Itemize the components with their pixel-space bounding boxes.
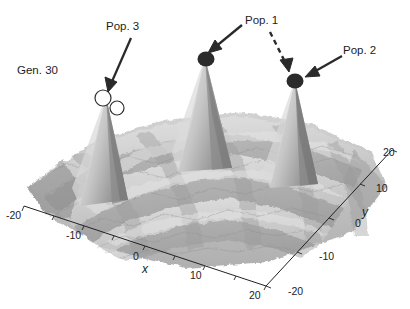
y-axis-title: y (362, 205, 368, 219)
marker-pop1 (198, 52, 215, 67)
arrow-migration-dashed (270, 32, 293, 72)
fitness-landscape-figure: Gen. 30 Pop. 3 Pop. 1 Pop. 2 -20 -10 0 1… (0, 0, 410, 309)
pop1-label: Pop. 1 (245, 14, 278, 26)
xtick-label-1: -10 (66, 229, 81, 241)
xtick-label-3: 10 (190, 269, 202, 281)
ytick-label-4: 20 (383, 146, 395, 158)
marker-pop2 (287, 74, 304, 89)
generation-label: Gen. 30 (17, 64, 58, 76)
xtick-label-4: 20 (249, 289, 261, 301)
arrow-pop2 (305, 56, 342, 77)
ytick-label-1: -10 (319, 250, 334, 262)
xtick-label-2: 0 (133, 250, 139, 262)
arrow-pop3 (105, 38, 131, 92)
ytick-label-2: 0 (355, 217, 361, 229)
marker-pop3 (95, 90, 124, 115)
xtick-label-0: -20 (6, 209, 21, 221)
ytick-label-3: 10 (376, 182, 388, 194)
ytick-label-0: -20 (288, 285, 303, 297)
pop3-label: Pop. 3 (106, 20, 139, 32)
pop2-label: Pop. 2 (343, 44, 376, 56)
arrow-pop1 (208, 25, 242, 53)
x-axis-title: x (142, 262, 148, 276)
